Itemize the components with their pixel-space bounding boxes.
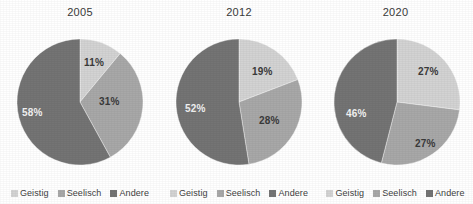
legend-item-geistig-2020[interactable]: Geistig — [326, 188, 364, 198]
pie-chart-group: 2005 11% 31% 58% Geistig — [0, 0, 473, 204]
chart-panel-2005: 2005 11% 31% 58% Geistig — [0, 0, 160, 204]
legend-swatch-seelisch-icon — [217, 190, 224, 197]
legend-swatch-seelisch-icon — [373, 190, 380, 197]
pie-label-andere-2005: 58% — [22, 107, 43, 118]
legend-2005: Geistig Seelisch Andere — [0, 188, 160, 198]
legend-item-andere-2005[interactable]: Andere — [110, 188, 149, 198]
chart-panel-2012: 2012 19% 28% 52% Geistig Seelisch — [160, 0, 318, 204]
legend-label-geistig: Geistig — [335, 188, 364, 198]
legend-swatch-geistig-icon — [170, 190, 177, 197]
pie-2020-svg — [334, 39, 460, 165]
legend-item-geistig-2012[interactable]: Geistig — [170, 188, 208, 198]
legend-item-andere-2020[interactable]: Andere — [426, 188, 465, 198]
legend-2012: Geistig Seelisch Andere — [160, 188, 318, 198]
legend-swatch-seelisch-icon — [58, 190, 65, 197]
legend-2020: Geistig Seelisch Andere — [318, 188, 473, 198]
legend-swatch-andere-icon — [426, 190, 433, 197]
chart-panel-2020: 2020 27% 27% 46% Geistig Seelisch — [318, 0, 473, 204]
pie-2005: 11% 31% 58% — [17, 39, 143, 165]
pie-2012-svg — [176, 39, 302, 165]
pie-label-andere-2012: 52% — [185, 103, 206, 114]
pie-label-seelisch-2020: 27% — [415, 138, 436, 149]
legend-swatch-geistig-icon — [11, 190, 18, 197]
legend-label-andere: Andere — [119, 188, 149, 198]
legend-label-geistig: Geistig — [20, 188, 49, 198]
legend-label-andere: Andere — [435, 188, 465, 198]
legend-label-geistig: Geistig — [179, 188, 208, 198]
legend-swatch-geistig-icon — [326, 190, 333, 197]
legend-label-seelisch: Seelisch — [226, 188, 261, 198]
legend-swatch-andere-icon — [110, 190, 117, 197]
pie-2005-svg — [17, 39, 143, 165]
pie-label-seelisch-2012: 28% — [259, 115, 280, 126]
legend-item-geistig-2005[interactable]: Geistig — [11, 188, 49, 198]
pie-2020: 27% 27% 46% — [334, 39, 460, 165]
legend-swatch-andere-icon — [269, 190, 276, 197]
legend-item-andere-2012[interactable]: Andere — [269, 188, 308, 198]
pie-label-geistig-2020: 27% — [418, 66, 439, 77]
chart-title-2012: 2012 — [160, 6, 318, 18]
legend-label-seelisch: Seelisch — [382, 188, 417, 198]
legend-item-seelisch-2020[interactable]: Seelisch — [373, 188, 417, 198]
legend-item-seelisch-2005[interactable]: Seelisch — [58, 188, 102, 198]
chart-title-2005: 2005 — [0, 6, 160, 18]
legend-label-seelisch: Seelisch — [67, 188, 102, 198]
pie-label-geistig-2012: 19% — [252, 66, 273, 77]
pie-label-seelisch-2005: 31% — [99, 96, 120, 107]
chart-title-2020: 2020 — [318, 6, 473, 18]
legend-item-seelisch-2012[interactable]: Seelisch — [217, 188, 261, 198]
pie-label-andere-2020: 46% — [346, 108, 367, 119]
pie-label-geistig-2005: 11% — [84, 57, 104, 68]
pie-slice-andere-2012[interactable] — [176, 39, 249, 165]
pie-2012: 19% 28% 52% — [176, 39, 302, 165]
legend-label-andere: Andere — [278, 188, 308, 198]
